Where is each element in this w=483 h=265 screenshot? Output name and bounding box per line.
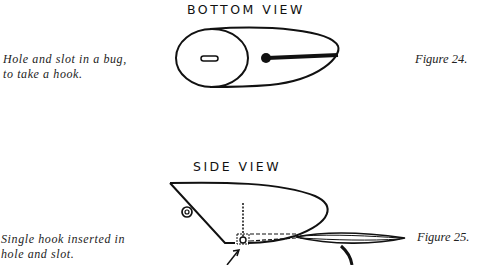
bottom-view-bug-icon — [176, 28, 338, 87]
side-view-bug-icon — [170, 183, 405, 265]
illustrations — [0, 0, 483, 265]
